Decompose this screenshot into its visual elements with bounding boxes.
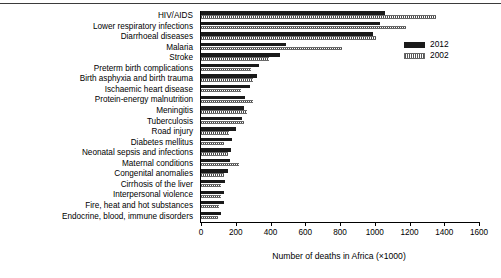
category-label: Endocrine, blood, immune disorders [0,212,193,222]
bar-chart-figure: HIV/AIDSLower respiratory infectionsDiar… [0,0,501,278]
bar-group [201,180,479,191]
x-axis-tick [340,222,341,226]
bar-2012 [201,43,286,46]
category-axis-labels: HIV/AIDSLower respiratory infectionsDiar… [0,11,197,222]
category-label: Maternal conditions [0,159,193,169]
category-label: Birth asphyxia and birth trauma [0,74,193,84]
x-axis-tick [375,222,376,226]
legend-label-2012: 2012 [430,39,449,50]
bar-2012 [201,169,228,172]
bar-group [201,106,479,117]
bar-2012 [201,148,231,151]
category-label: Tuberculosis [0,117,193,127]
bar-2002 [201,142,224,145]
bar-group [201,117,479,128]
category-label: Cirrhosis of the liver [0,180,193,190]
bar-2012 [201,53,280,56]
bar-group [201,211,479,222]
bar-group [201,22,479,33]
category-label: Neonatal sepsis and infections [0,148,193,158]
bar-2002 [201,163,239,166]
bar-2002 [201,216,218,219]
bar-2012 [201,191,224,194]
bar-group [201,85,479,96]
x-axis-tick [444,222,445,226]
category-label: Road injury [0,127,193,137]
bar-2012 [201,96,245,99]
category-label: Meningitis [0,106,193,116]
bar-group [201,201,479,212]
bar-2012 [201,85,250,88]
bar-group [201,64,479,75]
bar-2012 [201,159,230,162]
legend: 2012 2002 [404,39,449,61]
bar-2002 [201,195,221,198]
bar-2012 [201,138,232,141]
bar-2012 [201,212,221,215]
category-label: Preterm birth complications [0,64,193,74]
bar-group [201,74,479,85]
bar-2002 [201,15,436,18]
x-axis-tick [305,222,306,226]
bar-2002 [201,205,219,208]
bar-2012 [201,32,373,35]
bar-2002 [201,36,376,39]
category-label: Congenital anomalies [0,169,193,179]
bar-2002 [201,121,244,124]
bar-2002 [201,100,253,103]
bar-2002 [201,184,221,187]
bar-2012 [201,106,244,109]
category-label: Lower respiratory infections [0,22,193,32]
category-label: Stroke [0,53,193,63]
bar-2012 [201,11,385,14]
bar-2002 [201,47,342,50]
category-label: Interpersonal violence [0,190,193,200]
bar-group [201,190,479,201]
x-axis-tick [271,222,272,226]
bar-2002 [201,78,253,81]
bar-group [201,11,479,22]
bar-group [201,95,479,106]
bar-2012 [201,180,225,183]
bar-2012 [201,201,224,204]
bar-2002 [201,68,251,71]
legend-label-2002: 2002 [430,50,449,61]
x-axis-title: Number of deaths in Africa (×1000) [200,251,478,261]
legend-item-2012: 2012 [404,39,449,50]
bar-2012 [201,127,236,130]
x-axis-tick [236,222,237,226]
bar-2002 [201,131,229,134]
bar-2012 [201,117,242,120]
bar-group [201,138,479,149]
category-label: Diarrhoeal diseases [0,32,193,42]
bar-2002 [201,110,247,113]
bar-2012 [201,64,259,67]
legend-swatch-2002 [404,53,425,59]
category-label: HIV/AIDS [0,11,193,21]
legend-item-2002: 2002 [404,50,449,61]
x-axis-tick [410,222,411,226]
bar-group [201,148,479,159]
bar-2012 [201,74,257,77]
top-divider-rule [0,3,501,4]
category-label: Diabetes mellitus [0,138,193,148]
bar-2002 [201,57,269,60]
x-axis-tick [201,222,202,226]
bar-group [201,127,479,138]
x-axis-tick [479,222,480,226]
bar-2002 [201,173,224,176]
category-label: Malaria [0,43,193,53]
bar-2002 [201,152,228,155]
bar-group [201,169,479,180]
bar-2012 [201,22,380,25]
category-label: Ischaemic heart disease [0,85,193,95]
x-axis-tick-label: 1600 [459,228,499,237]
category-label: Fire, heat and hot substances [0,201,193,211]
bar-group [201,159,479,170]
bar-2002 [201,26,406,29]
category-label: Protein-energy malnutrition [0,95,193,105]
bar-2002 [201,89,241,92]
legend-swatch-2012 [404,42,425,48]
